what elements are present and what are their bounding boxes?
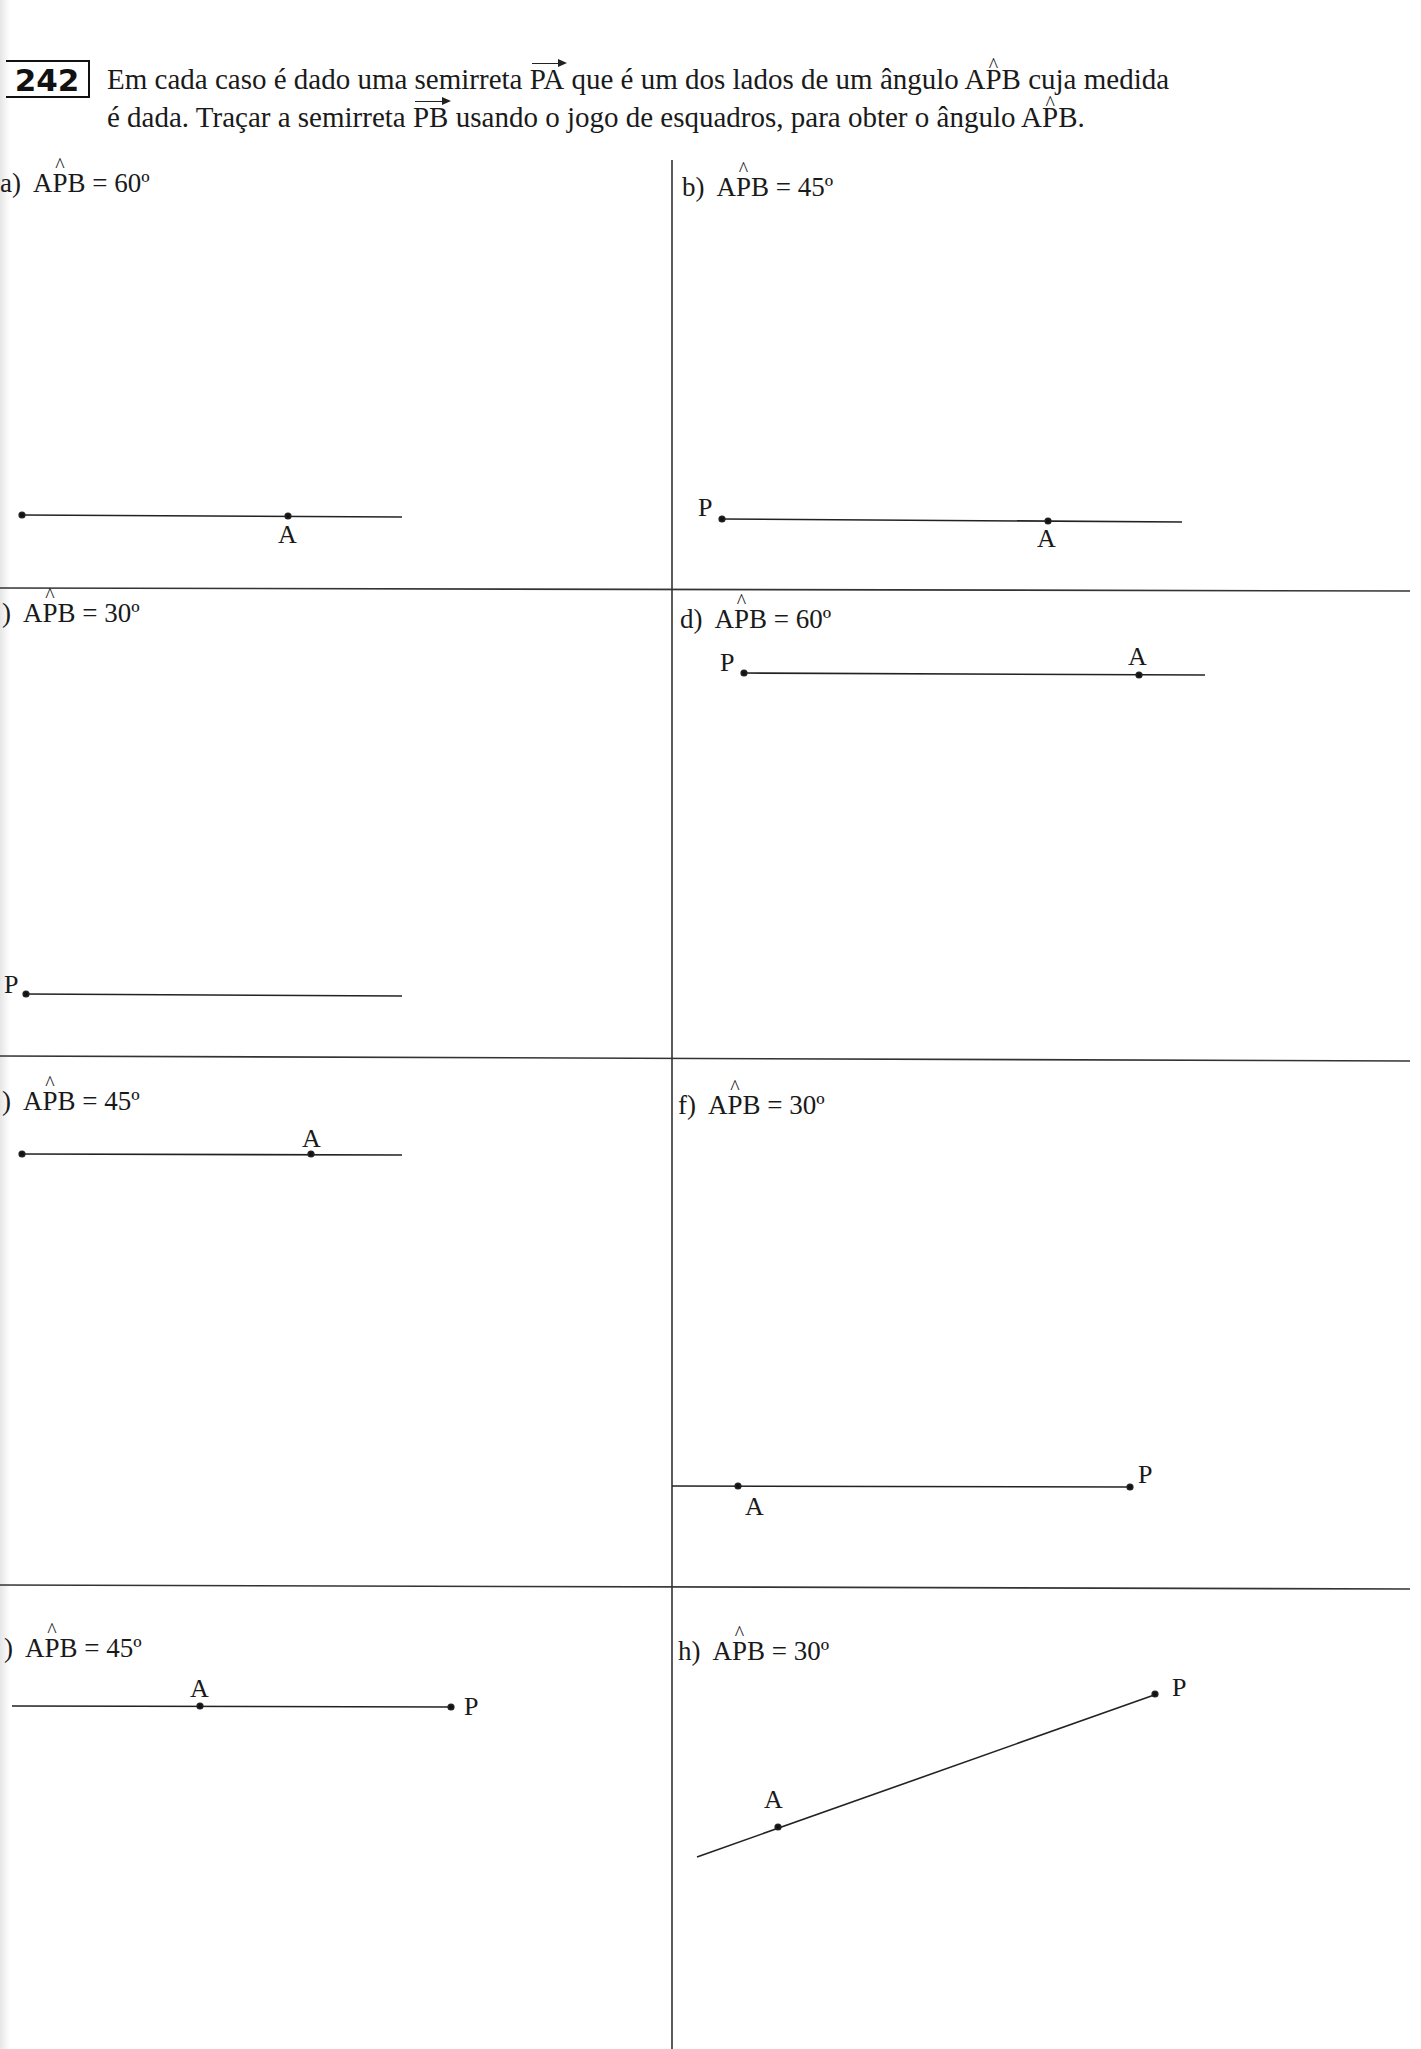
item-d-label: d) APB = 60º	[680, 604, 831, 635]
point-label-a-b: A	[1037, 524, 1056, 554]
point-label-a-a: A	[278, 520, 297, 550]
ray-pa-e	[22, 1154, 402, 1155]
point-p-b	[719, 516, 725, 522]
row-divider-1	[0, 588, 1410, 591]
point-label-a-e: A	[302, 1124, 321, 1154]
point-p-a	[19, 512, 25, 518]
point-p-e	[19, 1151, 25, 1157]
point-a-f	[735, 1483, 741, 1489]
item-a-label: a) APB = 60º	[0, 168, 150, 199]
point-label-p-d: P	[720, 648, 734, 678]
point-label-p-b: P	[698, 493, 712, 523]
item-e-label: ) APB = 45º	[2, 1086, 140, 1117]
point-a-h	[775, 1824, 781, 1830]
row-divider-2	[0, 1056, 1410, 1061]
point-label-a-d: A	[1128, 642, 1147, 672]
point-p-c	[23, 991, 29, 997]
point-a-a	[285, 513, 291, 519]
ray-pa-a	[22, 515, 402, 517]
point-label-p-g: P	[464, 1692, 478, 1722]
ray-pa-b	[722, 519, 1182, 522]
item-f-label: f) APB = 30º	[678, 1090, 825, 1121]
point-label-p-f: P	[1138, 1460, 1152, 1490]
point-p-h	[1152, 1691, 1158, 1697]
point-a-g	[197, 1703, 203, 1709]
ray-pa-c	[26, 994, 402, 996]
point-label-a-h: A	[764, 1785, 783, 1815]
point-label-a-f: A	[745, 1492, 764, 1522]
ray-pa-g	[12, 1706, 451, 1707]
item-h-label: h) APB = 30º	[678, 1636, 829, 1667]
row-divider-3	[0, 1585, 1410, 1589]
item-c-label: ) APB = 30º	[2, 598, 140, 629]
point-label-p-c: P	[4, 970, 18, 1000]
point-a-d	[1136, 672, 1142, 678]
point-p-g	[448, 1704, 454, 1710]
point-p-f	[1127, 1484, 1133, 1490]
ray-pa-h	[697, 1694, 1157, 1857]
point-p-d	[741, 670, 747, 676]
point-label-p-h: P	[1172, 1673, 1186, 1703]
point-label-a-g: A	[190, 1674, 209, 1704]
worksheet-drawing	[0, 0, 1421, 2049]
point-a-b	[1045, 518, 1051, 524]
item-b-label: b) APB = 45º	[682, 172, 833, 203]
item-g-label: ) APB = 45º	[4, 1633, 142, 1664]
